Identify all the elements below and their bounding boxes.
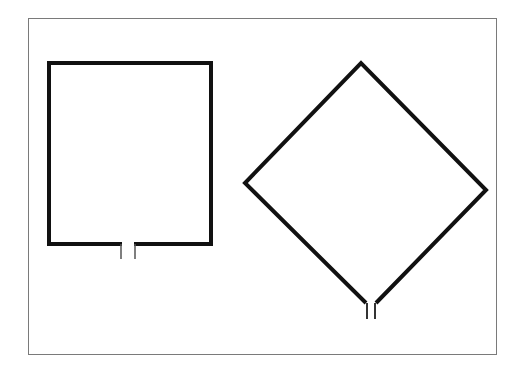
square-loop-antenna [49, 63, 211, 259]
diamond-loop-antenna [245, 63, 486, 319]
antenna-diagram [0, 0, 526, 367]
